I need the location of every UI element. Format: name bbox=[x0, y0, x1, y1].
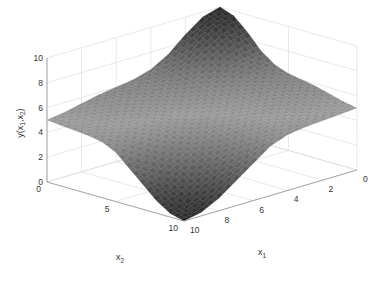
x2-tick-label: 10 bbox=[169, 223, 179, 233]
z-tick-label: 8 bbox=[38, 78, 43, 88]
svg-text:x2: x2 bbox=[116, 252, 125, 264]
x1-tick-label: 4 bbox=[294, 194, 299, 204]
z-axis-label: y(x1,x2) bbox=[15, 108, 26, 137]
surface-plot: 024681005100246810 y(x1,x2) x2 x1 bbox=[0, 0, 383, 281]
x2-axis-label: x2 bbox=[116, 252, 125, 264]
x2-tick-label: 5 bbox=[105, 204, 110, 214]
x1-tick-label: 10 bbox=[190, 225, 200, 235]
z-tick-label: 6 bbox=[38, 103, 43, 113]
z-tick-label: 10 bbox=[34, 53, 44, 63]
x1-tick-label: 6 bbox=[259, 205, 264, 215]
x1-tick-label: 8 bbox=[225, 215, 230, 225]
svg-text:y(x1,x2): y(x1,x2) bbox=[15, 108, 26, 137]
x2-tick-label: 0 bbox=[36, 184, 41, 194]
svg-text:x1: x1 bbox=[258, 247, 267, 259]
x1-tick-label: 2 bbox=[328, 184, 333, 194]
z-tick-label: 4 bbox=[38, 127, 43, 137]
surface bbox=[47, 7, 357, 221]
x1-axis-label: x1 bbox=[258, 247, 267, 259]
x1-tick-label: 0 bbox=[363, 174, 368, 184]
z-tick-label: 2 bbox=[38, 152, 43, 162]
